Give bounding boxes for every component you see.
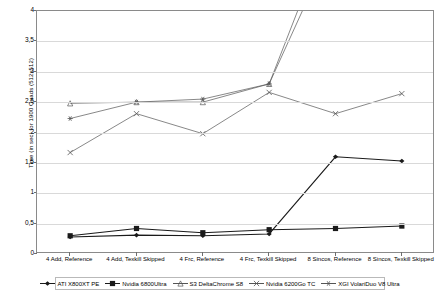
- series-xgi-volariduo-v8-ultra: [68, 11, 402, 121]
- data-point-marker: [178, 281, 183, 286]
- legend-label: S3 DeltaChrome S8: [190, 281, 243, 287]
- x-tick-mark: [136, 252, 137, 256]
- y-axis-ticks: 00,511,522,533,54: [0, 10, 34, 253]
- y-tick-label: 0: [0, 249, 34, 256]
- legend-marker-icon: [173, 280, 188, 287]
- legend-label: Nvidia 6200Go TC: [266, 281, 315, 287]
- data-point-marker: [333, 111, 338, 116]
- legend-item-s3-deltachrome-s8[interactable]: S3 DeltaChrome S8: [173, 280, 243, 287]
- gridline: [37, 102, 433, 103]
- data-point-marker: [200, 97, 205, 102]
- gridline: [37, 193, 433, 194]
- series-ati-x800xt-pe: [68, 155, 405, 240]
- x-tick-mark: [268, 252, 269, 256]
- x-tick-label: 4 Frc, Reference: [179, 256, 224, 262]
- x-tick-mark: [335, 252, 336, 256]
- data-point-marker: [45, 281, 50, 286]
- legend-item-xgi-volariduo-v8-ultra[interactable]: XGI VolariDuo V8 Ultra: [321, 280, 399, 287]
- series-line: [70, 11, 402, 103]
- data-point-marker: [134, 111, 139, 116]
- data-point-marker: [399, 91, 404, 96]
- y-tick-label: 4: [0, 6, 34, 13]
- legend-marker-icon: [249, 280, 264, 287]
- data-point-marker: [267, 90, 272, 95]
- x-tick-label: 4 Add, Texkill Skipped: [106, 256, 164, 262]
- gridline: [37, 224, 433, 225]
- legend-marker-icon: [321, 280, 336, 287]
- gridline: [37, 133, 433, 134]
- gridline: [37, 72, 433, 73]
- legend-label: ATI X800XT PE: [57, 281, 99, 287]
- legend-marker-icon: [40, 280, 55, 287]
- x-axis-labels: 4 Add, Reference4 Add, Texkill Skipped4 …: [36, 256, 434, 270]
- data-point-marker: [110, 281, 115, 286]
- y-tick-label: 2,5: [0, 97, 34, 104]
- data-point-marker: [68, 116, 73, 121]
- data-point-marker: [200, 230, 205, 235]
- x-tick-mark: [69, 252, 70, 256]
- data-point-marker: [68, 150, 73, 155]
- data-point-marker: [134, 233, 139, 238]
- y-tick-label: 0,5: [0, 219, 34, 226]
- y-tick-label: 1: [0, 188, 34, 195]
- legend-item-ati-x800xt-pe[interactable]: ATI X800XT PE: [40, 280, 99, 287]
- y-tick-label: 2: [0, 128, 34, 135]
- legend-label: Nvidia 6800Ultra: [122, 281, 166, 287]
- data-point-marker: [254, 281, 259, 286]
- series-line: [70, 157, 402, 237]
- y-tick-label: 1,5: [0, 158, 34, 165]
- data-point-marker: [134, 226, 139, 231]
- x-tick-label: 4 Add, Reference: [46, 256, 92, 262]
- data-point-marker: [267, 227, 272, 232]
- x-tick-mark: [401, 252, 402, 256]
- plot-area: [36, 10, 434, 253]
- data-point-marker: [326, 281, 331, 286]
- chart-legend: ATI X800XT PENvidia 6800UltraS3 DeltaChr…: [55, 277, 385, 290]
- y-tick-label: 3,5: [0, 36, 34, 43]
- gridline: [37, 163, 433, 164]
- legend-marker-icon: [105, 280, 120, 287]
- legend-item-nvidia-6800ultra[interactable]: Nvidia 6800Ultra: [105, 280, 166, 287]
- y-tick-label: 3: [0, 67, 34, 74]
- x-tick-label: 8 Sincos, Texkill Skipped: [368, 256, 434, 262]
- data-point-marker: [68, 233, 73, 238]
- x-tick-mark: [202, 252, 203, 256]
- line-chart: Time (in sec) for 1900 Quads (512x512) 0…: [0, 0, 440, 294]
- legend-item-nvidia-6200go-tc[interactable]: Nvidia 6200Go TC: [249, 280, 315, 287]
- x-tick-label: 4 Frc, Texkill Skipped: [240, 256, 297, 262]
- series-nvidia-6200go-tc: [68, 90, 405, 155]
- x-tick-label: 8 Sincos, Reference: [307, 256, 361, 262]
- data-point-marker: [333, 226, 338, 231]
- gridline: [37, 41, 433, 42]
- legend-label: XGI VolariDuo V8 Ultra: [338, 281, 399, 287]
